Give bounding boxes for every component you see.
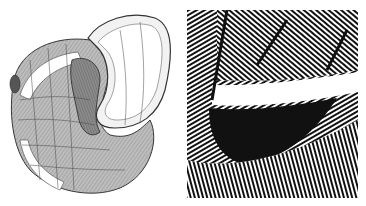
shell-engraving [0, 0, 180, 206]
hatching-detail [187, 10, 358, 198]
